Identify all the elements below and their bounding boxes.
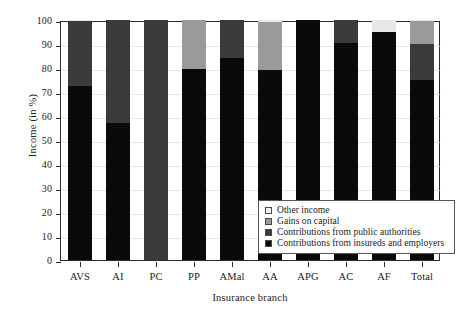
x-tick-mark bbox=[308, 262, 309, 267]
y-tick-mark bbox=[56, 262, 61, 263]
y-tick-label: 50 bbox=[12, 135, 52, 146]
bar-segment bbox=[106, 123, 130, 260]
legend-item-insureds-employers[interactable]: Contributions from insureds and employer… bbox=[265, 238, 449, 249]
bar-segment bbox=[106, 20, 130, 123]
y-tick-label: 70 bbox=[12, 87, 52, 98]
bar-segment bbox=[220, 20, 244, 58]
y-tick-mark bbox=[56, 190, 61, 191]
legend-item-public-authorities[interactable]: Contributions from public authorities bbox=[265, 227, 449, 238]
x-tick-mark bbox=[156, 262, 157, 267]
x-tick-mark bbox=[194, 262, 195, 267]
bar-segment bbox=[68, 21, 92, 86]
bar-segment bbox=[182, 20, 206, 69]
stacked-bar-chart-figure: Income (in %) 0102030405060708090100AVSA… bbox=[0, 0, 461, 317]
bar-segment bbox=[220, 58, 244, 260]
y-tick-mark bbox=[56, 238, 61, 239]
bar-column[interactable] bbox=[68, 20, 92, 260]
y-tick-label: 80 bbox=[12, 63, 52, 74]
y-tick-label: 10 bbox=[12, 231, 52, 242]
y-tick-mark bbox=[56, 118, 61, 119]
legend-item-other-income[interactable]: Other income bbox=[265, 205, 449, 216]
y-tick-label: 40 bbox=[12, 159, 52, 170]
x-tick-mark bbox=[384, 262, 385, 267]
bar-segment bbox=[258, 22, 282, 70]
y-tick-label: 60 bbox=[12, 111, 52, 122]
bar-segment bbox=[410, 20, 434, 21]
x-tick-mark bbox=[118, 262, 119, 267]
legend-label-gains-on-capital: Gains on capital bbox=[277, 216, 340, 226]
chart-legend: Other income Gains on capital Contributi… bbox=[258, 200, 455, 254]
x-tick-mark bbox=[80, 262, 81, 267]
bar-segment bbox=[68, 20, 92, 21]
y-tick-label: 90 bbox=[12, 39, 52, 50]
y-tick-mark bbox=[56, 22, 61, 23]
y-tick-mark bbox=[56, 214, 61, 215]
y-tick-label: 20 bbox=[12, 207, 52, 218]
y-tick-label: 30 bbox=[12, 183, 52, 194]
x-tick-mark bbox=[346, 262, 347, 267]
x-tick-mark bbox=[422, 262, 423, 267]
legend-swatch-insureds-employers-icon bbox=[265, 240, 272, 247]
legend-swatch-gains-on-capital-icon bbox=[265, 218, 272, 225]
y-tick-mark bbox=[56, 70, 61, 71]
bar-segment bbox=[144, 20, 168, 260]
bar-segment bbox=[258, 20, 282, 22]
x-tick-label: Total bbox=[392, 271, 452, 282]
legend-label-other-income: Other income bbox=[277, 205, 330, 215]
bar-segment bbox=[372, 20, 396, 32]
legend-swatch-public-authorities-icon bbox=[265, 229, 272, 236]
y-tick-mark bbox=[56, 46, 61, 47]
y-tick-mark bbox=[56, 166, 61, 167]
y-tick-mark bbox=[56, 94, 61, 95]
bar-column[interactable] bbox=[144, 20, 168, 260]
bar-column[interactable] bbox=[106, 20, 130, 260]
bar-segment bbox=[68, 86, 92, 260]
bar-column[interactable] bbox=[220, 20, 244, 260]
x-tick-mark bbox=[270, 262, 271, 267]
legend-label-public-authorities: Contributions from public authorities bbox=[277, 227, 421, 237]
legend-label-insureds-employers: Contributions from insureds and employer… bbox=[277, 238, 444, 248]
bar-segment bbox=[334, 20, 358, 43]
legend-item-gains-on-capital[interactable]: Gains on capital bbox=[265, 216, 449, 227]
bar-segment bbox=[410, 21, 434, 44]
bar-segment bbox=[410, 44, 434, 80]
x-tick-mark bbox=[232, 262, 233, 267]
y-tick-label: 0 bbox=[12, 255, 52, 266]
y-tick-mark bbox=[56, 142, 61, 143]
bar-column[interactable] bbox=[182, 20, 206, 260]
bar-segment bbox=[182, 69, 206, 260]
x-axis-title: Insurance branch bbox=[60, 292, 440, 303]
legend-swatch-other-income-icon bbox=[265, 207, 272, 214]
y-tick-label: 100 bbox=[12, 15, 52, 26]
